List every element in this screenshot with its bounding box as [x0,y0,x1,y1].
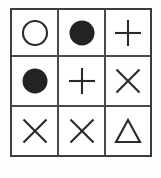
circle-filled-icon [67,18,97,48]
cross-x-icon [67,116,97,146]
grid-cell-r2c1 [12,57,59,107]
grid-cell-r1c3 [106,10,150,57]
circle-filled-icon [20,66,50,96]
plus-icon [67,66,97,96]
symbol-grid [10,8,152,157]
grid-cell-r2c2 [59,57,106,107]
grid-cell-r3c1 [12,107,59,155]
cross-x-icon [20,116,50,146]
triangle-outline-icon [113,116,143,146]
grid-cell-r2c3 [106,57,150,107]
grid-cell-r1c1 [12,10,59,57]
grid-cell-r3c3 [106,107,150,155]
grid-cell-r3c2 [59,107,106,155]
grid-cell-r1c2 [59,10,106,57]
cross-x-icon [113,66,143,96]
circle-outline-icon [20,18,50,48]
plus-icon [113,18,143,48]
